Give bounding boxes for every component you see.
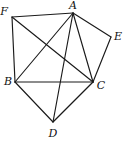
vertex-label-f: F (0, 6, 8, 17)
edge-e-c (93, 37, 111, 82)
vertex-label-d: D (49, 128, 58, 139)
edge-a-b (15, 13, 73, 82)
geometry-figure: ABCDEF (0, 0, 125, 144)
vertex-label-c: C (97, 80, 105, 91)
vertex-label-b: B (4, 76, 12, 87)
edge-f-c (12, 17, 93, 82)
vertex-label-e: E (114, 31, 122, 42)
diagram-canvas (0, 0, 125, 144)
edge-d-b (15, 82, 53, 122)
vertex-label-a: A (69, 0, 77, 11)
edge-f-a (12, 13, 73, 17)
edges-group (12, 13, 111, 122)
edge-b-f (12, 17, 15, 82)
